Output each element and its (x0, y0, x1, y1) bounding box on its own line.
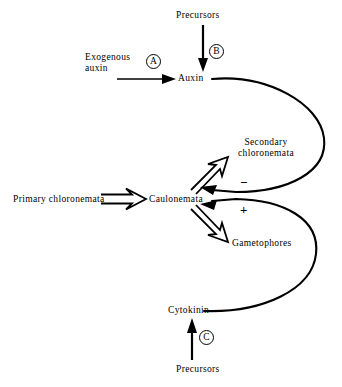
node-label-caulonemata: Caulonemata (149, 194, 203, 205)
step-marker-c: C (199, 330, 214, 345)
node-label-cytokinin: Cytokinin (168, 305, 209, 316)
edge-caulonemata-to-gametophores (191, 205, 228, 242)
edge-exogenous-auxin-to-auxin (117, 74, 176, 84)
node-label-primary-chloronemata: Primary chloronemata (13, 194, 105, 205)
step-marker-a: A (146, 54, 161, 69)
edge-precursors-to-auxin (198, 25, 208, 72)
exogenous-auxin-line2: auxin (85, 63, 130, 74)
edge-cytokinin-to-caulonemata-promotion (200, 199, 316, 311)
step-marker-b: B (209, 44, 224, 59)
exogenous-auxin-line1: Exogenous (85, 52, 130, 63)
node-label-precursors-bottom: Precursors (176, 364, 220, 375)
node-label-gametophores: Gametophores (232, 238, 292, 249)
node-label-secondary-chloronemata: Secondary chloronemata (228, 137, 304, 159)
secondary-chloronemata-line2: chloronemata (228, 148, 304, 159)
promotion-sign: + (240, 203, 247, 216)
secondary-chloronemata-line1: Secondary (228, 137, 304, 148)
node-label-auxin: Auxin (178, 73, 204, 84)
edge-precursors-to-cytokinin (187, 318, 197, 360)
node-label-precursors-top: Precursors (176, 10, 220, 21)
inhibition-sign: − (240, 176, 247, 189)
diagram-canvas: Precursors Exogenous auxin Auxin Primary… (0, 0, 342, 387)
node-label-exogenous-auxin: Exogenous auxin (85, 52, 130, 73)
edge-primary-chloronemata-to-caulonemata (101, 189, 146, 210)
